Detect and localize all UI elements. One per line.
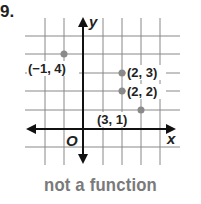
y-axis-up-arrow-icon: [78, 17, 88, 27]
point-2-2: [119, 88, 126, 95]
label-point-neg1-4: (−1, 4): [28, 61, 66, 76]
point-2-3: [119, 70, 126, 77]
point-3-1: [138, 107, 145, 114]
label-point-2-2: (2, 2): [127, 84, 157, 99]
label-point-3-1: (3, 1): [97, 112, 127, 127]
y-axis-label: y: [88, 13, 98, 30]
y-axis-down-arrow-icon: [78, 154, 88, 164]
label-point-2-3: (2, 3): [127, 65, 157, 80]
origin-label: O: [66, 132, 78, 149]
point-neg1-4: [61, 51, 68, 58]
caption: not a function: [12, 174, 189, 196]
x-axis-left-arrow-icon: [26, 124, 36, 134]
x-axis-label: x: [166, 130, 176, 147]
